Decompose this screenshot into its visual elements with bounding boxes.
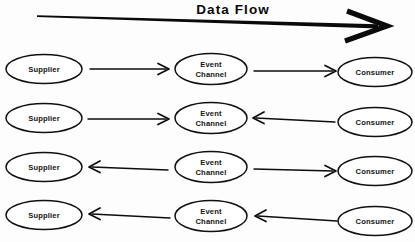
node-event-channel[interactable]: Event Channel <box>175 201 247 232</box>
event-channel-label-line1: Event <box>200 109 222 118</box>
diagram-header: Data Flow <box>37 2 387 41</box>
node-event-channel[interactable]: Event Channel <box>175 152 247 183</box>
supplier-label: Supplier <box>28 65 60 74</box>
node-event-channel[interactable]: Event Channel <box>175 54 247 85</box>
event-channel-label-line2: Channel <box>195 217 226 226</box>
node-event-channel[interactable]: Event Channel <box>175 103 247 134</box>
table-row: Supplier Event Channel Consumer <box>6 54 412 87</box>
node-consumer[interactable]: Consumer <box>338 157 412 186</box>
arrow-supplier-to-channel-right <box>88 114 169 125</box>
consumer-label: Consumer <box>356 217 395 226</box>
node-supplier[interactable]: Supplier <box>6 104 82 133</box>
node-consumer[interactable]: Consumer <box>338 58 412 87</box>
arrow-supplier-to-channel-right <box>90 64 169 75</box>
table-row: Supplier Event Channel Consumer <box>6 103 412 137</box>
node-supplier[interactable]: Supplier <box>6 55 82 84</box>
data-flow-diagram: Data Flow Supplier Event <box>0 0 415 242</box>
flow-arrow-shaft <box>37 15 378 28</box>
arrow-consumer-to-channel-left <box>255 210 337 222</box>
supplier-label: Supplier <box>28 163 60 172</box>
arrow-channel-to-supplier-left <box>89 208 170 220</box>
diagram-title: Data Flow <box>196 2 270 17</box>
supplier-label: Supplier <box>28 211 60 220</box>
node-consumer[interactable]: Consumer <box>338 108 412 137</box>
event-channel-label-line1: Event <box>200 207 222 216</box>
table-row: Supplier Event Channel Consumer <box>6 201 412 236</box>
event-channel-label-line2: Channel <box>195 119 226 128</box>
node-supplier[interactable]: Supplier <box>6 153 82 182</box>
arrow-consumer-to-channel-left <box>253 112 335 124</box>
event-channel-label-line1: Event <box>200 60 222 69</box>
supplier-label: Supplier <box>28 114 60 123</box>
node-supplier[interactable]: Supplier <box>6 201 82 230</box>
event-channel-label-line2: Channel <box>195 70 226 79</box>
event-channel-label-line2: Channel <box>195 168 226 177</box>
consumer-label: Consumer <box>356 68 395 77</box>
consumer-label: Consumer <box>356 167 395 176</box>
event-channel-label-line1: Event <box>200 158 222 167</box>
table-row: Supplier Event Channel Consumer <box>6 152 412 186</box>
arrow-channel-to-consumer-right <box>254 166 336 177</box>
node-consumer[interactable]: Consumer <box>338 207 412 236</box>
arrow-channel-to-consumer-right <box>254 66 336 77</box>
arrow-channel-to-supplier-left <box>89 161 168 173</box>
consumer-label: Consumer <box>356 118 395 127</box>
